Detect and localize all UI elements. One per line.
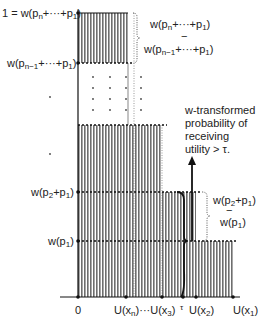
svg-text:w-transformed: w-transformed xyxy=(184,104,255,116)
y-label-p1: w(p1) xyxy=(47,235,74,249)
top-bracket-minus: − xyxy=(181,30,187,42)
y-label-one: 1 = w(pn+···+p1) xyxy=(2,7,81,21)
arrow-up-icon xyxy=(188,156,196,165)
bottom-bracket-label-line1: w(p2+p1) xyxy=(212,194,256,208)
x-label-ux2: U(x2) xyxy=(189,304,214,318)
band-top xyxy=(78,13,128,63)
svg-text:probability of: probability of xyxy=(185,117,248,129)
svg-text:receiving: receiving xyxy=(185,130,229,142)
bottom-bracket-label-line2: w(p1) xyxy=(219,216,246,230)
y-label-n-minus-1: w(pn−1+···+p1) xyxy=(6,57,76,71)
band-p2p1 xyxy=(78,192,196,241)
x-label-zero: 0 xyxy=(75,304,81,316)
x-label-uxn-ux3: U(xn)···U(x3) xyxy=(114,304,175,318)
bottom-bracket xyxy=(202,192,210,241)
top-bracket-label-line2: w(pn−1+···+p1) xyxy=(143,43,213,57)
x-label-ux1: U(x1) xyxy=(233,304,258,318)
decision-weight-diagram: 1 = w(pn+···+p1) w(pn−1+···+p1) w(p2+p1)… xyxy=(0,0,266,325)
top-bracket-label-line1: w(pn+···+p1) xyxy=(149,18,210,32)
y-label-p2p1: w(p2+p1) xyxy=(30,186,74,200)
annotation-text: w-transformed probability of receiving u… xyxy=(184,104,255,155)
band-p1 xyxy=(78,241,233,297)
x-label-tau: τ xyxy=(180,303,184,312)
svg-text:utility > τ.: utility > τ. xyxy=(185,143,230,155)
bottom-bracket-minus: − xyxy=(226,204,232,216)
hatched-bands xyxy=(78,13,233,297)
band-n3 xyxy=(78,125,162,192)
